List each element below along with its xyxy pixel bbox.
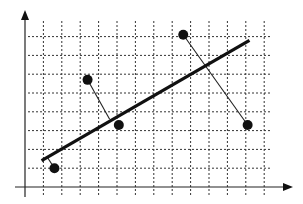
scatter-plot — [0, 0, 303, 204]
x-axis-arrow-icon — [283, 183, 293, 191]
data-point — [243, 120, 253, 130]
data-point — [178, 30, 188, 40]
y-axis-arrow-icon — [21, 10, 29, 20]
residual-segments — [47, 35, 248, 168]
data-point — [114, 120, 124, 130]
data-point — [49, 163, 59, 173]
data-point — [83, 75, 93, 85]
regression-line — [42, 40, 250, 160]
